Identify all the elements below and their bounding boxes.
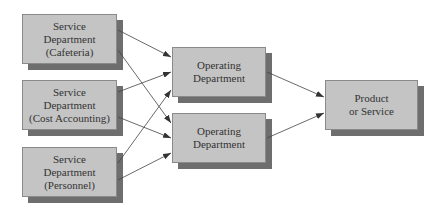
box-label: (Personnel) [44,179,95,192]
box-label: Service [53,86,86,99]
box-label: Department [44,99,96,112]
box-label: (Cost Accounting) [29,112,110,125]
box-label: Service [53,153,86,166]
box-label: Department [193,72,245,85]
service-department-personnel: Service Department (Personnel) [22,147,117,197]
operating-department-1: Operating Department [172,47,266,97]
service-department-cost-accounting: Service Department (Cost Accounting) [22,80,117,130]
box-label: Department [44,33,96,46]
box-label: (Cafeteria) [46,46,94,59]
box-label: or Service [349,105,394,118]
box-label: Department [44,166,96,179]
box-label: Service [53,20,86,33]
box-label: Operating [197,125,241,138]
operating-department-2: Operating Department [172,113,266,163]
box-label: Operating [197,59,241,72]
box-label: Department [193,138,245,151]
product-or-service: Product or Service [325,80,418,130]
service-department-cafeteria: Service Department (Cafeteria) [22,14,117,64]
box-label: Product [354,92,388,105]
